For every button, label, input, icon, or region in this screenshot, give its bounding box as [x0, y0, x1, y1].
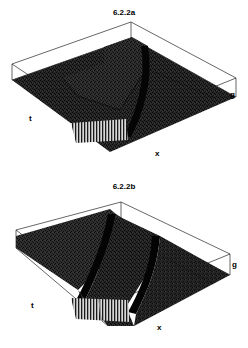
- axis-label-t-a: t: [29, 115, 32, 123]
- surface-plot-a: [0, 0, 248, 174]
- figure-6-2-2b: 6.2.2b: [0, 174, 248, 348]
- plot-canvas-a: [0, 0, 248, 174]
- axis-label-t-b: t: [31, 302, 34, 310]
- axis-label-x-a: x: [155, 150, 159, 158]
- surface-mesh-a: [12, 37, 236, 152]
- hatched-initial-band-a: [71, 119, 128, 143]
- axis-label-x-b: x: [157, 324, 161, 332]
- axis-label-g-a: g: [230, 91, 235, 99]
- plot-canvas-b: [0, 174, 248, 348]
- figure-6-2-2a: 6.2.2a: [0, 0, 248, 174]
- surface-mesh-b: [16, 209, 230, 326]
- axis-label-g-b: g: [232, 261, 237, 269]
- surface-plot-b: [0, 174, 248, 348]
